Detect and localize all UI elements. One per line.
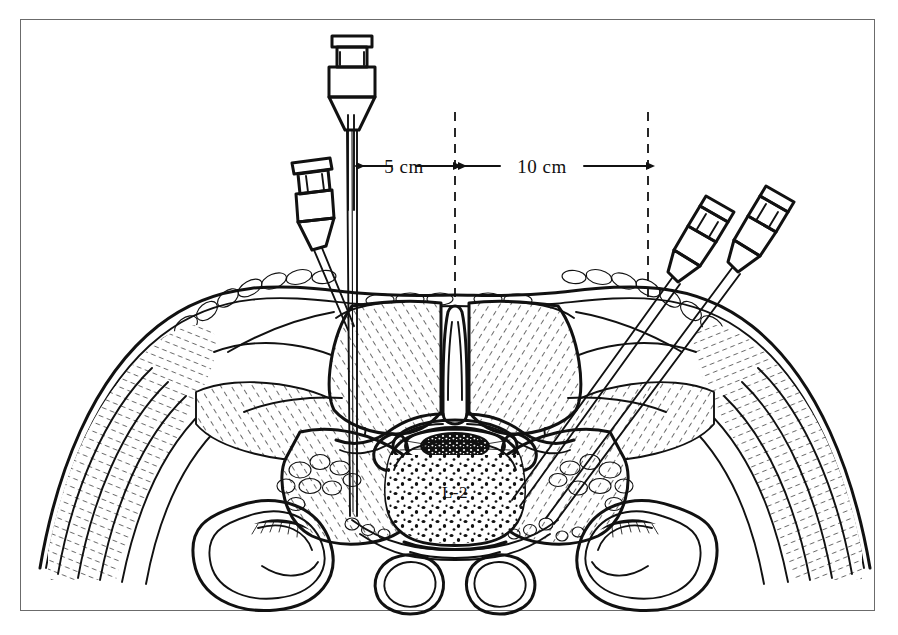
dimension-label-5cm: 5 cm	[384, 156, 423, 177]
anatomical-illustration: L-2	[0, 0, 898, 635]
dimension-10cm: 10 cm	[458, 156, 646, 177]
needle-hub-left-oblique[interactable]	[292, 158, 334, 250]
needle-hub-right-oblique-inner[interactable]	[668, 196, 734, 282]
vertebra-label: L-2	[442, 483, 468, 502]
erector-spinae-muscle	[320, 290, 595, 450]
reference-lines	[455, 112, 648, 300]
kidney-left	[193, 501, 333, 611]
dimension-label-10cm: 10 cm	[517, 156, 566, 177]
dimension-5cm: 5 cm	[348, 115, 453, 210]
aorta	[375, 555, 443, 614]
needle-hub-right-oblique-outer[interactable]	[728, 186, 794, 272]
kidney-right	[577, 501, 717, 611]
needle-left-oblique[interactable]	[292, 158, 354, 330]
needle-hub-paramedian[interactable]	[329, 36, 375, 130]
spinous-process	[443, 306, 467, 424]
inferior-vena-cava	[467, 555, 535, 614]
figure-root: L-2	[0, 0, 898, 635]
